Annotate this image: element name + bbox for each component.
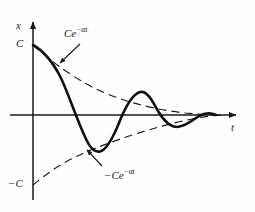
upper-envelope-base: Ce [64,27,76,39]
lower-envelope-label: −Ce−αt [104,168,135,181]
lower-envelope-exponent: −αt [124,167,135,176]
oscillation-curve [33,45,216,152]
y-axis-label: x [16,20,21,31]
amplitude-negative-label: −C [8,178,23,189]
annotation-leaders [60,44,102,166]
upper-envelope-label: Ce−αt [64,26,87,39]
upper-label-leader [60,44,80,63]
figure-damped-oscillation: x t C −C Ce−αt −Ce−αt [0,0,255,212]
x-axis-label: t [231,122,234,133]
upper-envelope-exponent: −αt [76,25,87,34]
amplitude-positive-label: C [16,38,23,49]
lower-envelope-base: −Ce [104,169,124,181]
